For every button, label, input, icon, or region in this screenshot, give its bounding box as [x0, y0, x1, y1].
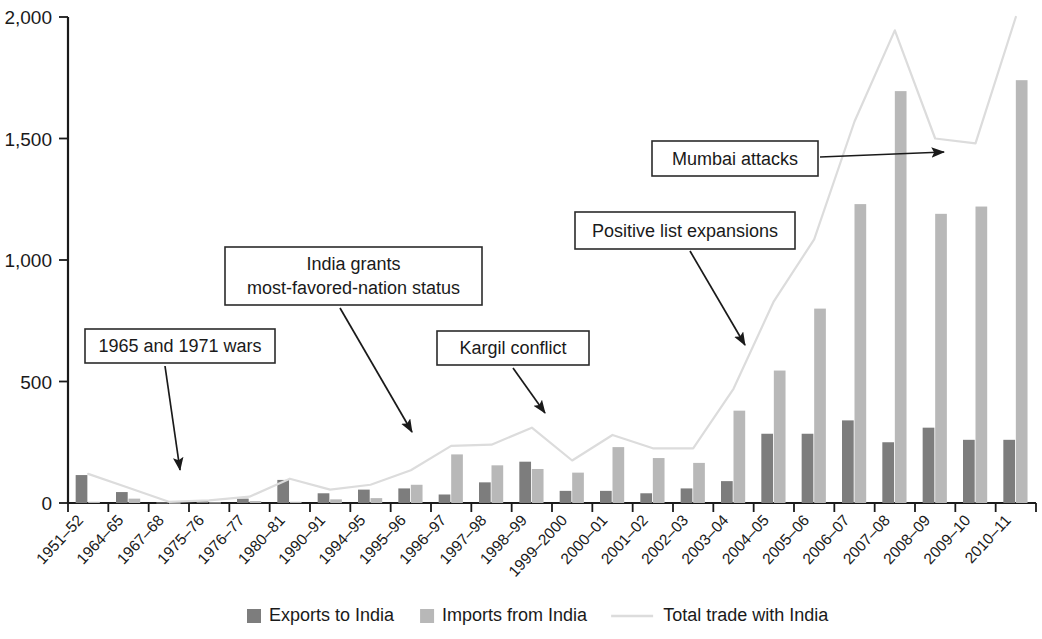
bar [560, 491, 572, 503]
bar [653, 458, 665, 503]
bar [439, 495, 451, 504]
y-tick-label: 1,000 [4, 250, 52, 271]
bar [519, 462, 531, 503]
bar [371, 498, 383, 503]
bar [613, 447, 625, 503]
bar [156, 502, 168, 503]
bar [923, 428, 935, 503]
annotation-arrow [513, 368, 545, 413]
x-axis: 1951–521964–651967–681975–761976–771980–… [33, 503, 1036, 580]
annotation-callout[interactable]: 1965 and 1971 wars [85, 329, 275, 470]
bar [721, 481, 733, 503]
bar [88, 502, 100, 503]
bar [600, 491, 612, 503]
bar [734, 411, 746, 503]
bar [681, 488, 693, 503]
bar-series-1 [76, 420, 1015, 503]
bar [855, 204, 867, 503]
bar [116, 492, 128, 503]
bar [814, 309, 826, 503]
trade-bar-chart: 05001,0001,5002,0001951–521964–651967–68… [0, 0, 1042, 639]
y-tick-label: 0 [41, 493, 52, 514]
bar [479, 482, 491, 503]
annotation-label: Mumbai attacks [672, 149, 798, 169]
bar [935, 214, 947, 503]
bar [492, 465, 504, 503]
bar [129, 499, 141, 503]
annotation-label: most-favored-nation status [247, 278, 460, 298]
bar [76, 475, 88, 503]
bar [398, 488, 410, 503]
annotation-label: India grants [306, 254, 400, 274]
annotation-arrow [340, 308, 412, 432]
bar [532, 469, 544, 503]
y-tick-label: 2,000 [4, 7, 52, 28]
legend-label: Exports to India [269, 605, 395, 625]
legend-item[interactable]: Exports to India [247, 605, 395, 625]
annotation-label: 1965 and 1971 wars [98, 336, 261, 356]
annotation-arrow [165, 366, 180, 470]
y-axis: 05001,0001,5002,000 [4, 7, 68, 514]
legend-swatch-icon [420, 609, 434, 623]
annotation-arrow [690, 251, 745, 345]
legend-item[interactable]: Total trade with India [611, 605, 829, 625]
bar [290, 502, 302, 503]
bar [237, 499, 249, 503]
bar [1003, 440, 1015, 503]
bar [411, 485, 423, 503]
legend-swatch-icon [247, 609, 261, 623]
annotation-arrow [820, 152, 944, 157]
chart-container: 05001,0001,5002,0001951–521964–651967–68… [0, 0, 1042, 639]
bar [358, 490, 370, 503]
y-tick-label: 500 [20, 372, 52, 393]
bar [774, 371, 786, 503]
bar [330, 499, 342, 503]
bar [842, 420, 854, 503]
legend-item[interactable]: Imports from India [420, 605, 588, 625]
bar [976, 207, 988, 503]
bar [640, 493, 652, 503]
bar [318, 493, 330, 503]
bar [209, 502, 221, 503]
bar [963, 440, 975, 503]
legend: Exports to IndiaImports from IndiaTotal … [247, 605, 829, 625]
legend-label: Total trade with India [663, 605, 829, 625]
bar [1016, 80, 1028, 503]
bar [693, 463, 705, 503]
bar [882, 442, 894, 503]
annotation-label: Kargil conflict [459, 338, 566, 358]
annotation-label: Positive list expansions [592, 221, 778, 241]
annotation-callout[interactable]: Kargil conflict [437, 331, 589, 413]
bar [761, 434, 773, 503]
bars-layer [76, 80, 1028, 504]
bar [451, 454, 463, 503]
bar [250, 501, 262, 503]
bar [802, 434, 814, 503]
legend-label: Imports from India [442, 605, 588, 625]
y-tick-label: 1,500 [4, 129, 52, 150]
bar [572, 473, 584, 503]
